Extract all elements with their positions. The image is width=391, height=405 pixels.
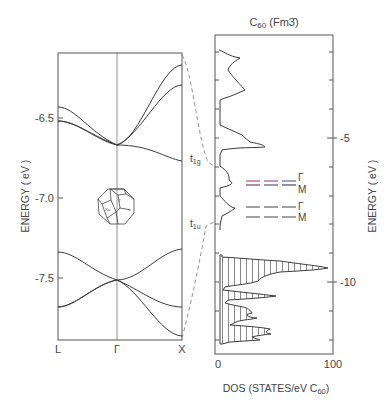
xtick-L: L bbox=[55, 343, 61, 355]
left-ylabel: ENERGY ( eV ) bbox=[19, 160, 31, 233]
xtick-Gamma: Γ bbox=[114, 343, 120, 355]
connector-dashes bbox=[182, 55, 214, 338]
ytick-right-5: -5 bbox=[340, 132, 350, 144]
t1g-label: t1g bbox=[190, 153, 201, 166]
xtick-X: X bbox=[178, 343, 186, 355]
legend-label-m-2: M bbox=[298, 212, 306, 223]
dos-title: C60 (Fm3̄) bbox=[249, 16, 298, 30]
brillouin-zone-inset bbox=[98, 189, 134, 224]
dos-right-ticks bbox=[327, 52, 337, 340]
ytick-right-10: -10 bbox=[340, 276, 356, 288]
legend-label-m-1: M bbox=[298, 184, 306, 195]
ytick-7.5: -7.5 bbox=[35, 272, 54, 284]
t1u-label: t1u bbox=[190, 218, 201, 230]
legend-label-gamma-1: Γ bbox=[298, 172, 304, 183]
dos-xlabel: DOS (STATES/eV C60) bbox=[223, 382, 330, 396]
dos-panel: -5 -10 0 100 bbox=[215, 35, 356, 370]
t1u-bands bbox=[58, 249, 182, 336]
inset-x-label: Xa bbox=[105, 207, 111, 212]
band-structure-panel: -6.5 -7.0 -7.5 L Γ X ENERGY ( eV ) bbox=[19, 53, 186, 355]
dos-left-ticks bbox=[215, 52, 219, 340]
right-ylabel: ENERGY ( eV ) bbox=[366, 160, 378, 233]
dos-occupied-area bbox=[220, 255, 328, 344]
inset-gamma-label: Γ bbox=[119, 198, 122, 203]
figure-canvas: -6.5 -7.0 -7.5 L Γ X ENERGY ( eV ) bbox=[0, 0, 391, 405]
xtick-dos-100: 100 bbox=[324, 358, 342, 370]
ytick-7.0: -7.0 bbox=[35, 192, 54, 204]
legend-label-gamma-2: Γ bbox=[298, 201, 304, 212]
ytick-6.5: -6.5 bbox=[35, 112, 54, 124]
legend: Γ M Γ M bbox=[246, 172, 306, 223]
dos-unoccupied-curve bbox=[219, 50, 265, 230]
xtick-dos-0: 0 bbox=[215, 358, 221, 370]
t1g-bands bbox=[58, 65, 182, 161]
